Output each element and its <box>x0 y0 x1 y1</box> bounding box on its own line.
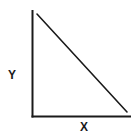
y-axis-label: Y <box>8 69 16 81</box>
chart-plot-area <box>0 0 136 140</box>
data-line <box>37 14 127 112</box>
line-chart: Y X <box>0 0 136 140</box>
x-axis-label: X <box>80 121 88 133</box>
